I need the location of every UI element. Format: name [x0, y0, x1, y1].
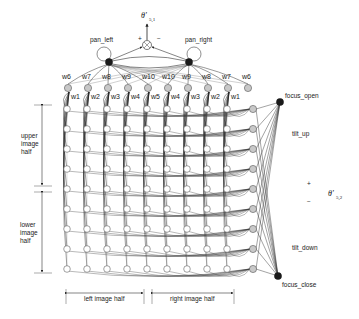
grid-node: [124, 126, 131, 133]
weight-label: w8: [201, 73, 211, 80]
grid-node: [64, 166, 71, 173]
left-image-half-label: left image half: [84, 295, 125, 303]
grid-node: [164, 126, 171, 133]
grid-node: [84, 126, 91, 133]
grid-node: [204, 246, 211, 253]
weight-label: w7: [81, 73, 91, 80]
left-half-bracket: left image half: [66, 289, 144, 304]
grid-node: [144, 186, 151, 193]
right-image-half-label: right image half: [170, 295, 215, 303]
weight-label: w8: [101, 73, 111, 80]
grid-node: [144, 126, 151, 133]
weight-label: w10: [141, 73, 155, 80]
svg-text:half: half: [21, 148, 32, 155]
grid-node: [224, 166, 231, 173]
plus-sign-right: +: [307, 180, 311, 187]
grid-node: [124, 206, 131, 213]
weight-label: w4: [170, 93, 180, 100]
grid-node: [64, 226, 71, 233]
output-right-label: θ': [328, 189, 334, 198]
pan-left-node: pan_left: [90, 36, 113, 66]
grid-node: [84, 226, 91, 233]
minus-sign-top: −: [157, 35, 161, 42]
output-top-subscript: 5,1: [149, 17, 156, 23]
grid-node: [204, 186, 211, 193]
grid-node: [144, 226, 151, 233]
svg-text:half: half: [20, 237, 31, 244]
grid-node: [124, 166, 131, 173]
grid-node: [144, 146, 151, 153]
input-node: [204, 84, 211, 91]
grid-node: [84, 166, 91, 173]
grid-node: [184, 166, 191, 173]
grid-node: [104, 146, 111, 153]
weight-label: w5: [150, 93, 160, 100]
row-node: [249, 125, 256, 132]
grid-node: [104, 126, 111, 133]
focus-open-label: focus_open: [285, 92, 319, 100]
weight-label: w2: [210, 93, 220, 100]
grid-node: [144, 166, 151, 173]
grid-node: [224, 246, 231, 253]
svg-text:image: image: [21, 140, 39, 148]
row-node: [249, 185, 256, 192]
upper-half-bracket: upper image half: [21, 105, 52, 186]
grid-node: [64, 246, 71, 253]
grid-node: [224, 206, 231, 213]
grid-node: [224, 146, 231, 153]
neural-network-diagram: θ' 5,1 + − pan_left pan_right w6w7w8w9w1…: [0, 0, 359, 319]
grid-node: [84, 206, 91, 213]
pan-left-label: pan_left: [90, 36, 113, 44]
grid-node: [64, 126, 71, 133]
weight-label: w6: [241, 73, 251, 80]
grid-node: [164, 246, 171, 253]
grid-node: [224, 226, 231, 233]
grid-node: [164, 206, 171, 213]
grid-node: [144, 106, 151, 113]
grid-node: [204, 206, 211, 213]
input-node: [224, 84, 231, 91]
weight-label: w2: [90, 93, 100, 100]
grid-node: [84, 186, 91, 193]
grid-node: [144, 206, 151, 213]
row-node: [249, 225, 256, 232]
grid-node: [104, 246, 111, 253]
grid-node: [124, 266, 131, 273]
input-node: [104, 84, 111, 91]
grid-node: [184, 266, 191, 273]
lower-half-bracket: lower image half: [20, 192, 52, 273]
grid-node: [184, 126, 191, 133]
grid-node: [184, 146, 191, 153]
plus-sign-top: +: [138, 35, 142, 42]
grid-node: [204, 106, 211, 113]
grid-node: [204, 226, 211, 233]
grid-node: [224, 266, 231, 273]
grid-node: [64, 206, 71, 213]
output-top-label: θ': [141, 11, 147, 20]
grid-node: [164, 146, 171, 153]
grid-node: [64, 186, 71, 193]
grid-node: [164, 166, 171, 173]
row-node: [249, 205, 256, 212]
grid-node: [164, 106, 171, 113]
grid-node: [184, 206, 191, 213]
grid-node: [224, 126, 231, 133]
input-node: [84, 84, 91, 91]
grid-node: [164, 266, 171, 273]
pan-right-node: pan_right: [185, 36, 212, 66]
row-node: [249, 105, 256, 112]
weight-label: w1: [230, 93, 240, 100]
grid-node: [104, 226, 111, 233]
tilt-up-label: tilt_up: [292, 130, 310, 138]
focus-close-node: focus_close: [274, 272, 317, 289]
lower-weight-labels: w1w2w3w4w5w4w3w2w1: [70, 93, 240, 100]
grid-node: [84, 146, 91, 153]
grid-node: [164, 186, 171, 193]
grid-node: [144, 266, 151, 273]
grid-node: [124, 226, 131, 233]
weight-label: w3: [190, 93, 200, 100]
input-node: [64, 84, 71, 91]
grid-node: [124, 146, 131, 153]
input-node: [144, 84, 151, 91]
weight-label: w3: [110, 93, 120, 100]
